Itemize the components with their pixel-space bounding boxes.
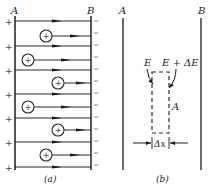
diagram-figure: A B +++++++ ++++++ (a) A B E E + ΔE A Δx…	[0, 0, 208, 188]
plus-sign: +	[5, 42, 13, 52]
field-arrow-icon	[52, 116, 62, 119]
field-e-plus-de-arrow-icon	[169, 69, 176, 88]
ion-arrow-icon	[70, 34, 80, 37]
field-e-plus-de-label: E + ΔE	[161, 57, 199, 68]
positive-charges: +++++++	[5, 17, 13, 173]
area-label: A	[171, 101, 179, 112]
caption-a: (a)	[44, 174, 57, 184]
plus-sign: +	[5, 114, 13, 124]
field-arrow-icon	[52, 140, 62, 143]
ion-plus-sign: +	[43, 151, 50, 160]
plate-a-label: A	[10, 5, 18, 16]
ion-plus-sign: +	[43, 32, 50, 41]
ion-arrow-icon	[70, 153, 80, 156]
field-arrow-icon	[52, 165, 62, 168]
panel-a: A B +++++++ ++++++ (a)	[5, 5, 98, 184]
ion-plus-sign: +	[25, 56, 32, 65]
ion-arrow-icon	[61, 105, 71, 108]
field-arrow-icon	[52, 44, 62, 47]
gaussian-pillbox	[152, 72, 169, 133]
plate-b-label: B	[86, 5, 94, 16]
field-arrow-icon	[52, 68, 62, 71]
caption-b: (b)	[156, 174, 169, 184]
ion-plus-sign: +	[55, 79, 62, 88]
ion-arrow-icon	[76, 81, 86, 84]
ion-arrow-icon	[61, 58, 71, 61]
field-e-label: E	[143, 57, 152, 68]
negative-charges	[94, 21, 98, 165]
width-label: Δx	[153, 139, 166, 149]
plate-b-label-b: B	[197, 5, 205, 16]
field-lines	[15, 19, 91, 168]
field-arrow-icon	[52, 92, 62, 95]
ion-plus-sign: +	[55, 126, 62, 135]
ion-plus-sign: +	[25, 103, 32, 112]
plus-sign: +	[5, 138, 13, 148]
plate-a-label-b: A	[118, 5, 126, 16]
plus-sign: +	[5, 90, 13, 100]
plus-sign: +	[5, 163, 13, 173]
field-arrow-icon	[52, 19, 62, 22]
ion-arrow-icon	[76, 128, 86, 131]
plus-sign: +	[5, 66, 13, 76]
field-e-arrow-icon	[147, 69, 153, 84]
panel-b: A B E E + ΔE A Δx (b)	[118, 5, 205, 184]
plus-sign: +	[5, 17, 13, 27]
